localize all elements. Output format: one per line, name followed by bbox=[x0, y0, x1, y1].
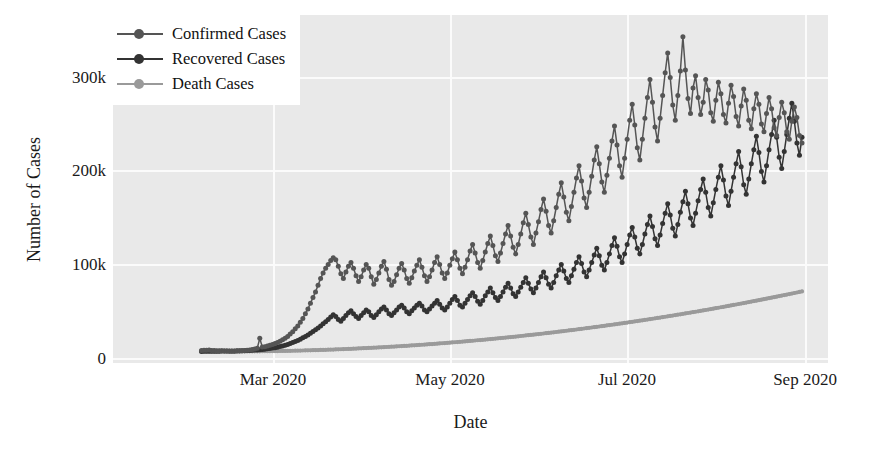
x-tick-sep-2020: Sep 2020 bbox=[735, 371, 874, 388]
legend-marker-recovered-icon bbox=[117, 52, 163, 66]
legend-item-recovered-cases: Recovered Cases bbox=[117, 46, 286, 71]
y-tick-200k: 200k bbox=[46, 162, 106, 179]
legend-label-recovered-cases: Recovered Cases bbox=[172, 49, 285, 69]
x-tick-jul-2020: Jul 2020 bbox=[557, 371, 697, 388]
legend-item-confirmed-cases: Confirmed Cases bbox=[117, 21, 286, 46]
legend-item-death-cases: Death Cases bbox=[117, 71, 286, 96]
legend-marker-confirmed-icon bbox=[117, 27, 163, 41]
series-recovered-cases bbox=[199, 101, 804, 354]
legend-label-death-cases: Death Cases bbox=[172, 74, 254, 94]
chart-legend: Confirmed Cases Recovered Cases Death Ca… bbox=[107, 12, 300, 105]
y-tick-100k: 100k bbox=[46, 256, 106, 273]
x-tick-may-2020: May 2020 bbox=[380, 371, 520, 388]
x-tick-mar-2020: Mar 2020 bbox=[203, 371, 343, 388]
legend-marker-death-icon bbox=[117, 77, 163, 91]
y-axis-label: Number of Cases bbox=[24, 90, 45, 310]
legend-label-confirmed-cases: Confirmed Cases bbox=[172, 24, 286, 44]
y-tick-0: 0 bbox=[46, 350, 106, 367]
x-axis-label: Date bbox=[113, 412, 828, 433]
chart-figure: 300k 200k 100k 0 Mar 2020 May 2020 Jul 2… bbox=[0, 0, 874, 461]
y-axis-ticks: 300k 200k 100k 0 bbox=[38, 0, 106, 461]
y-tick-300k: 300k bbox=[46, 69, 106, 86]
